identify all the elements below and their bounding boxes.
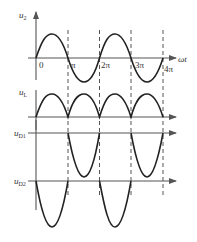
panel-u2: u2 0 π 2π 3π 4π ωt — [19, 10, 187, 82]
tick-pi: π — [71, 60, 76, 70]
uD2-label: uD2 — [14, 176, 26, 187]
origin-label: 0 — [39, 60, 44, 70]
uD1-curve — [68, 133, 163, 177]
rectifier-waveform-diagram: u2 0 π 2π 3π 4π ωt uL uD1 uD2 — [0, 0, 197, 242]
panel-uL: uL — [19, 87, 176, 130]
tick-2pi: 2π — [101, 60, 111, 70]
x-axis-label: ωt — [178, 54, 187, 64]
u2-label: u2 — [19, 10, 27, 21]
panel-uD1: uD1 — [14, 128, 176, 177]
uD2-curve — [36, 181, 131, 227]
uL-label: uL — [19, 87, 28, 98]
uD1-label: uD1 — [14, 128, 26, 139]
uL-rectified-curve — [36, 94, 163, 117]
period-guide-lines — [68, 30, 163, 198]
tick-4pi: 4π — [164, 64, 174, 74]
tick-3pi: 3π — [135, 60, 145, 70]
